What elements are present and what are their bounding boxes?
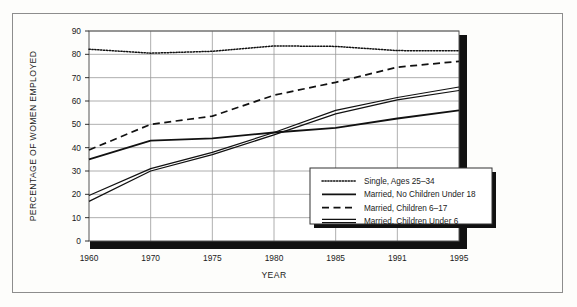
x-tick-label: 1991 (388, 253, 407, 263)
legend-label: Married, Children 6–17 (364, 204, 448, 213)
y-tick-label: 10 (72, 213, 82, 223)
y-tick-label: 90 (72, 26, 82, 36)
y-tick-label: 0 (76, 236, 81, 246)
x-tick-label: 1960 (80, 253, 99, 263)
legend-label: Married, Children Under 6 (364, 217, 459, 226)
x-tick-label: 1985 (326, 253, 345, 263)
y-axis-title: PERCENTAGE OF WOMEN EMPLOYED (28, 51, 38, 222)
y-tick-label: 60 (72, 96, 82, 106)
chart-legend: Single, Ages 25–34Married, No Children U… (310, 168, 496, 228)
line-chart: 0102030405060708090 19601970197519801985… (0, 0, 577, 307)
y-axis-ticks (85, 31, 89, 241)
chart-figure: 0102030405060708090 19601970197519801985… (0, 0, 577, 307)
y-tick-label: 20 (72, 189, 82, 199)
legend-label: Single, Ages 25–34 (364, 177, 435, 186)
y-axis-tick-labels: 0102030405060708090 (72, 26, 82, 246)
x-tick-label: 1975 (203, 253, 222, 263)
y-tick-label: 70 (72, 73, 82, 83)
x-axis-tick-labels: 1960197019751980198519911995 (80, 253, 469, 263)
y-tick-label: 50 (72, 119, 82, 129)
y-tick-label: 80 (72, 49, 82, 59)
x-tick-label: 1980 (265, 253, 284, 263)
x-tick-label: 1970 (141, 253, 160, 263)
x-tick-label: 1995 (450, 253, 469, 263)
x-axis-title: YEAR (261, 270, 286, 280)
y-tick-label: 30 (72, 166, 82, 176)
legend-label: Married, No Children Under 18 (364, 190, 476, 199)
y-tick-label: 40 (72, 143, 82, 153)
